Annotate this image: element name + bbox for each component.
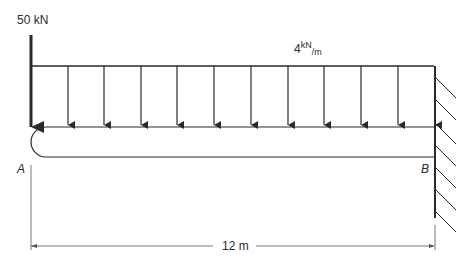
wall-hatching xyxy=(436,78,456,232)
dimension-label: 12 m xyxy=(222,239,249,253)
point-a-label: A xyxy=(17,162,25,176)
distributed-load-label: 4kN/m xyxy=(294,42,322,56)
beam xyxy=(31,127,435,157)
point-load-label: 50 kN xyxy=(17,13,48,27)
point-b-label: B xyxy=(421,162,429,176)
beam-diagram xyxy=(0,0,473,267)
distributed-load-arrows xyxy=(68,66,435,125)
